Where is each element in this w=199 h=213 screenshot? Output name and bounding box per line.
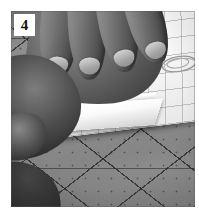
step-number-badge: 4 — [14, 14, 35, 36]
step-number-text: 4 — [21, 18, 29, 33]
fingernail — [79, 57, 101, 75]
mat-bottom-shading — [11, 167, 195, 207]
instructional-figure: 4 — [0, 0, 199, 213]
fingernail — [143, 39, 168, 61]
fingernail — [112, 48, 136, 68]
step-photograph — [11, 11, 195, 207]
